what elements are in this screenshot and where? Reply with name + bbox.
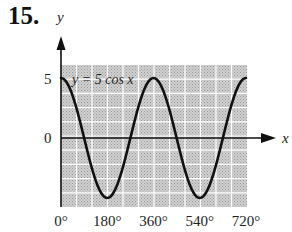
cosine-chart: y x 5 0 y = 5 cos x 0°180°360°540°720° (0, 0, 292, 232)
x-tick-labels: 0°180°360°540°720° (54, 213, 260, 229)
x-tick-label: 540° (186, 213, 215, 229)
y-axis-label: y (55, 9, 64, 25)
x-tick-label: 0° (54, 213, 68, 229)
y-tick-0: 0 (44, 130, 52, 146)
equation-label: y = 5 cos x (70, 72, 134, 87)
y-tick-5: 5 (44, 71, 52, 87)
x-tick-label: 720° (232, 213, 261, 229)
x-axis-label: x (281, 130, 289, 146)
y-axis-arrow-icon (57, 36, 66, 50)
x-tick-label: 360° (139, 213, 168, 229)
x-axis-arrow-icon (261, 133, 276, 143)
x-tick-label: 180° (93, 213, 122, 229)
